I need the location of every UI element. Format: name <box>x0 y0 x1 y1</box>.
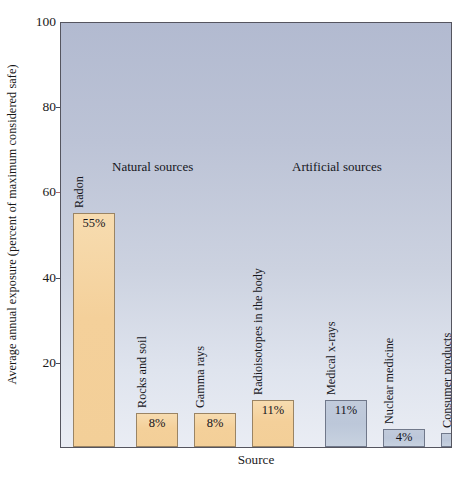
bar-value-rocks-and-soil: 8% <box>137 417 177 431</box>
bar-label-nuclear-medicine: Nuclear medicine <box>382 338 397 424</box>
group-label-natural-sources: Natural sources <box>112 159 193 175</box>
bar-nuclear-medicine[interactable]: 4% Nuclear medicine <box>383 429 425 447</box>
bar-label-radioisotopes-in-the-body: Radioisotopes in the body <box>251 268 266 395</box>
bar-value-medical-x-rays: 11% <box>326 404 366 418</box>
bar-label-medical-x-rays: Medical x-rays <box>324 322 339 395</box>
bar-consumer-products[interactable]: 3% Consumer products <box>441 433 452 447</box>
bar-rocks-and-soil[interactable]: 8% Rocks and soil <box>136 413 178 447</box>
bar-radioisotopes-in-the-body[interactable]: 11% Radioisotopes in the body <box>252 400 294 447</box>
bar-radon[interactable]: 55% Radon <box>73 213 115 447</box>
y-axis-tick-labels: 100 80 60 40 20 <box>24 0 56 479</box>
bar-value-gamma-rays: 8% <box>195 417 235 431</box>
bar-value-radon: 55% <box>74 217 114 231</box>
y-tick-label-20: 20 <box>26 356 56 370</box>
bar-value-radioisotopes-in-the-body: 11% <box>253 404 293 418</box>
y-axis-title: Average annual exposure (percent of maxi… <box>0 0 24 448</box>
bar-label-gamma-rays: Gamma rays <box>193 346 208 408</box>
group-label-artificial-sources: Artificial sources <box>292 159 382 175</box>
bar-medical-x-rays[interactable]: 11% Medical x-rays <box>325 400 367 447</box>
plot-area: Natural sources Artificial sources 55% R… <box>60 22 452 448</box>
bar-label-rocks-and-soil: Rocks and soil <box>135 336 150 408</box>
x-axis-title: Source <box>60 452 452 468</box>
bar-value-nuclear-medicine: 4% <box>384 431 424 445</box>
y-axis-title-text: Average annual exposure (percent of maxi… <box>5 64 20 384</box>
y-tick-label-40: 40 <box>26 271 56 285</box>
radiation-exposure-bar-chart: Average annual exposure (percent of maxi… <box>0 0 468 479</box>
bar-label-radon: Radon <box>72 176 87 208</box>
bar-gamma-rays[interactable]: 8% Gamma rays <box>194 413 236 447</box>
bar-label-consumer-products: Consumer products <box>440 333 452 428</box>
y-tick-label-60: 60 <box>26 185 56 199</box>
y-tick-label-100: 100 <box>26 15 56 29</box>
y-tick-label-80: 80 <box>26 100 56 114</box>
bar-value-consumer-products: 3% <box>442 434 452 448</box>
